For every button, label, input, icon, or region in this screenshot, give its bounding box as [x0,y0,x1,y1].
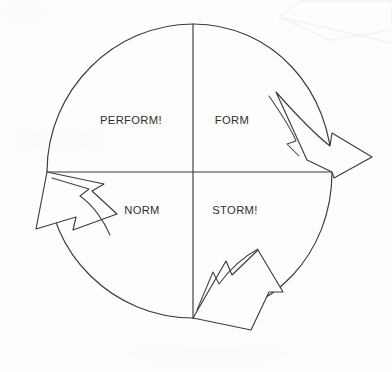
quadrant-label-form: FORM [215,114,249,126]
diagram-canvas: PERFORM! FORM NORM STORM! [0,0,392,372]
arrow-right [269,92,372,178]
arrow-left [36,172,117,235]
paper-edge-artifact [279,1,392,43]
quadrant-labels: PERFORM! FORM NORM STORM! [100,114,258,216]
team-development-cycle-figure: PERFORM! FORM NORM STORM! [0,0,392,372]
cycle-circle [47,24,332,318]
quadrant-label-norm: NORM [124,204,160,216]
arrow-bottom [193,249,283,330]
quadrant-label-storm: STORM! [212,204,257,216]
quadrant-label-perform: PERFORM! [100,114,162,126]
